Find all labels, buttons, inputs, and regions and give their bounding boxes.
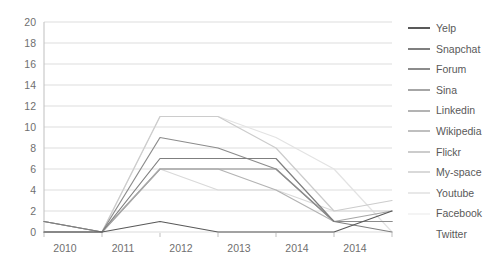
legend-item-forum[interactable]: Forum bbox=[408, 59, 495, 80]
legend-item-linkedin[interactable]: Linkedin bbox=[408, 100, 495, 121]
y-tick-label: 20 bbox=[24, 16, 36, 28]
legend-item-twitter[interactable]: Twitter bbox=[408, 224, 495, 245]
legend-line-icon bbox=[408, 27, 430, 29]
legend-item-facebook[interactable]: Facebook bbox=[408, 203, 495, 224]
legend-item-youtube[interactable]: Youtube bbox=[408, 183, 495, 204]
y-tick-labels: 02468101214161820 bbox=[24, 16, 36, 238]
y-tick-label: 6 bbox=[30, 163, 36, 175]
legend-item-label: Forum bbox=[436, 64, 466, 75]
legend-line-icon bbox=[408, 171, 430, 173]
legend-item-label: Wikipedia bbox=[436, 126, 482, 137]
x-tick-label: 2011 bbox=[112, 242, 135, 254]
y-tick-label: 18 bbox=[24, 37, 36, 49]
y-tick-label: 16 bbox=[24, 58, 36, 70]
legend-item-label: Youtube bbox=[436, 188, 474, 199]
legend-line-icon bbox=[408, 130, 430, 132]
legend-line-icon bbox=[408, 192, 430, 194]
legend-line-icon bbox=[408, 48, 430, 50]
y-tick-label: 4 bbox=[30, 184, 36, 196]
legend-item-flickr[interactable]: Flickr bbox=[408, 142, 495, 163]
legend-item-label: Sina bbox=[436, 85, 457, 96]
legend-item-label: Facebook bbox=[436, 208, 482, 219]
legend-item-label: My-space bbox=[436, 167, 482, 178]
legend-item-label: Flickr bbox=[436, 147, 461, 158]
legend-item-snapchat[interactable]: Snapchat bbox=[408, 39, 495, 60]
x-tick-label: 2010 bbox=[53, 242, 77, 254]
line-chart: 02468101214161820 2010201120122013201420… bbox=[0, 0, 495, 261]
legend-item-sina[interactable]: Sina bbox=[408, 80, 495, 101]
data-series-group bbox=[44, 117, 392, 233]
legend-item-wikipedia[interactable]: Wikipedia bbox=[408, 121, 495, 142]
chart-svg: 02468101214161820 2010201120122013201420… bbox=[0, 0, 400, 261]
legend-line-icon bbox=[408, 233, 430, 235]
legend-item-my-space[interactable]: My-space bbox=[408, 162, 495, 183]
x-tick-label: 2014 bbox=[285, 242, 309, 254]
legend-line-icon bbox=[408, 89, 430, 91]
y-tick-label: 0 bbox=[30, 226, 36, 238]
legend-item-label: Yelp bbox=[436, 23, 456, 34]
series-line-forum bbox=[44, 138, 392, 233]
x-axis-ticks bbox=[44, 232, 392, 237]
legend-item-label: Snapchat bbox=[436, 44, 480, 55]
legend-line-icon bbox=[408, 213, 430, 215]
y-tick-label: 10 bbox=[24, 121, 36, 133]
legend-line-icon bbox=[408, 110, 430, 112]
y-tick-label: 8 bbox=[30, 142, 36, 154]
x-tick-labels: 2010201120122013201420142016 bbox=[53, 242, 400, 254]
y-tick-label: 14 bbox=[24, 79, 36, 91]
x-tick-label: 2013 bbox=[227, 242, 251, 254]
plot-area: 02468101214161820 2010201120122013201420… bbox=[0, 0, 400, 261]
legend-line-icon bbox=[408, 68, 430, 70]
chart-legend: YelpSnapchatForumSinaLinkedinWikipediaFl… bbox=[408, 18, 495, 246]
x-tick-label: 2012 bbox=[169, 242, 193, 254]
y-tick-label: 2 bbox=[30, 205, 36, 217]
legend-item-yelp[interactable]: Yelp bbox=[408, 18, 495, 39]
x-tick-label: 2014 bbox=[343, 242, 367, 254]
legend-item-label: Twitter bbox=[436, 229, 467, 240]
series-line-flickr bbox=[44, 117, 392, 233]
legend-item-label: Linkedin bbox=[436, 105, 475, 116]
legend-line-icon bbox=[408, 151, 430, 153]
gridlines bbox=[44, 22, 392, 232]
y-tick-label: 12 bbox=[24, 100, 36, 112]
series-line-youtube bbox=[44, 117, 392, 233]
